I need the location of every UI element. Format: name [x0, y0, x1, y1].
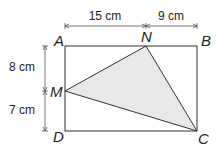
point-n-label: N — [141, 28, 152, 45]
vertical-dimension — [42, 46, 48, 131]
dimension-an-label: 15 cm — [89, 9, 122, 23]
point-a-label: A — [53, 32, 64, 49]
geometry-diagram: 15 cm 9 cm 8 cm 7 cm A N B M D C — [0, 0, 220, 155]
point-b-label: B — [201, 32, 211, 49]
point-c-label: C — [198, 130, 209, 147]
dimension-nb-label: 9 cm — [158, 9, 184, 23]
horizontal-dimension — [65, 23, 197, 29]
triangle-mnc — [65, 46, 197, 131]
dimension-md-label: 7 cm — [9, 103, 35, 117]
dimension-am-label: 8 cm — [9, 60, 35, 74]
point-d-label: D — [53, 128, 64, 145]
point-m-label: M — [50, 83, 63, 100]
